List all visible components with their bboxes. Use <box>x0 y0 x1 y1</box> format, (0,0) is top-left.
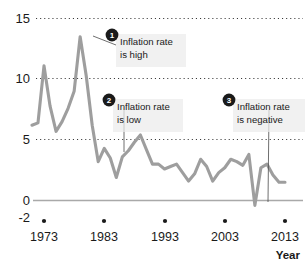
annotation-1-line1: Inflation rate <box>120 36 173 47</box>
annotation-callout-2[interactable]: 2 Inflation rate is low <box>103 94 183 132</box>
annotation-1-line2: is high <box>120 49 148 60</box>
x-tick-dot-1973 <box>42 219 46 223</box>
x-axis-tick-labels: 1973 1983 1993 2003 2013 <box>30 230 299 244</box>
x-tick-label-1993: 1993 <box>151 230 179 244</box>
x-tick-label-2003: 2003 <box>211 230 239 244</box>
annotation-1-badge-number: 1 <box>110 31 115 40</box>
chart-canvas: 15 10 5 0 -2 1973 1983 1993 2003 2013 Ye… <box>0 0 308 266</box>
x-tick-label-1973: 1973 <box>30 230 58 244</box>
x-tick-label-1983: 1983 <box>90 230 118 244</box>
annotation-3-badge-number: 3 <box>227 96 232 105</box>
annotation-2-line2: is low <box>117 114 141 125</box>
y-tick-label-minus2: -2 <box>18 210 30 225</box>
y-tick-label-10: 10 <box>16 71 30 86</box>
y-tick-label-5: 5 <box>23 132 30 147</box>
annotation-2-badge-number: 2 <box>107 96 112 105</box>
x-axis-title: Year <box>276 249 301 261</box>
y-tick-label-15: 15 <box>16 11 30 26</box>
annotation-3-line2: is negative <box>237 114 283 125</box>
x-tick-label-2013: 2013 <box>271 230 299 244</box>
x-axis-tick-marks <box>42 219 287 223</box>
x-tick-dot-2013 <box>283 219 287 223</box>
y-axis-tick-labels: 15 10 5 0 -2 <box>16 11 30 225</box>
annotation-2-line1: Inflation rate <box>117 101 170 112</box>
annotation-callout-1[interactable]: 1 Inflation rate is high <box>106 29 186 67</box>
x-tick-dot-1993 <box>163 219 167 223</box>
annotation-3-line1: Inflation rate <box>237 101 290 112</box>
inflation-rate-line-chart: 15 10 5 0 -2 1973 1983 1993 2003 2013 Ye… <box>0 0 308 266</box>
y-tick-label-0: 0 <box>23 193 30 208</box>
x-tick-dot-1983 <box>102 219 106 223</box>
annotation-callout-3[interactable]: 3 Inflation rate is negative <box>223 94 305 132</box>
x-tick-dot-2003 <box>223 219 227 223</box>
